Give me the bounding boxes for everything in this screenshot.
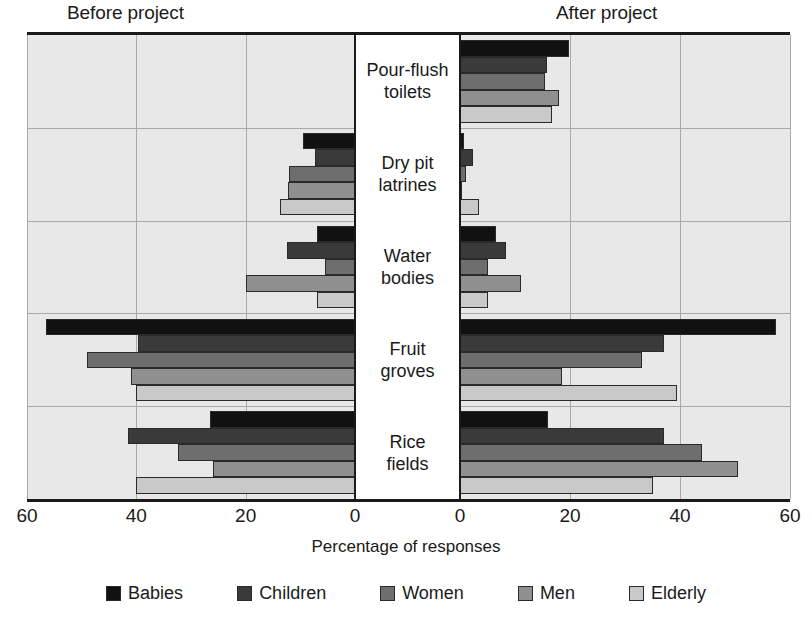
bar-after [460, 199, 479, 216]
x-axis-label: Percentage of responses [0, 537, 812, 557]
bar-before [128, 428, 355, 445]
axis-zero-left [354, 35, 356, 499]
bar-after [460, 259, 488, 276]
category-label: Dry pitlatrines [355, 152, 460, 196]
bar-before [287, 242, 355, 259]
bar-before [280, 199, 355, 216]
legend-label: Women [402, 583, 464, 604]
bar-after [460, 319, 776, 336]
bar-after [460, 275, 521, 292]
bar-after [460, 57, 547, 74]
x-tick-label: 40 [111, 505, 161, 527]
bar-after [460, 335, 664, 352]
chart-container: Before project After project Pour-flusht… [0, 0, 812, 626]
category-label: Pour-flushtoilets [355, 59, 460, 103]
plot-area: Pour-flushtoiletsDry pitlatrinesWaterbod… [27, 32, 790, 502]
bar-after [460, 352, 642, 369]
category-label: Ricefields [355, 431, 460, 475]
bar-after [460, 226, 496, 243]
bar-before [246, 275, 355, 292]
legend-label: Elderly [651, 583, 706, 604]
x-tick-label: 60 [2, 505, 52, 527]
legend-swatch-icon [629, 586, 644, 601]
legend-item[interactable]: Elderly [629, 583, 706, 604]
bar-before [46, 319, 355, 336]
legend-swatch-icon [106, 586, 121, 601]
category-label: Waterbodies [355, 245, 460, 289]
legend-item[interactable]: Men [518, 583, 575, 604]
bar-before [136, 385, 355, 402]
bar-after [460, 106, 552, 123]
panel-heading-after: After project [556, 2, 657, 24]
bar-before [303, 133, 355, 150]
legend-label: Men [540, 583, 575, 604]
bar-after [460, 385, 677, 402]
bar-after [460, 477, 653, 494]
x-tick-label: 40 [655, 505, 705, 527]
bar-after [460, 411, 548, 428]
bar-after [460, 444, 702, 461]
chart-legend: BabiesChildrenWomenMenElderly [0, 583, 812, 604]
x-tick-label: 0 [435, 505, 485, 527]
bar-before [325, 259, 355, 276]
bar-before [138, 335, 355, 352]
x-tick-label: 60 [765, 505, 812, 527]
bar-before [178, 444, 355, 461]
legend-swatch-icon [380, 586, 395, 601]
bar-after [460, 461, 738, 478]
bar-before [87, 352, 355, 369]
legend-swatch-icon [518, 586, 533, 601]
bar-before [213, 461, 355, 478]
panel-heading-before: Before project [67, 2, 184, 24]
bar-before [210, 411, 355, 428]
bar-after [460, 90, 559, 107]
legend-item[interactable]: Babies [106, 583, 183, 604]
bar-after [460, 292, 488, 309]
bar-before [317, 226, 355, 243]
bar-after [460, 40, 569, 57]
legend-item[interactable]: Women [380, 583, 464, 604]
bar-before [289, 166, 355, 183]
bar-before [136, 477, 355, 494]
gridline-vertical [790, 35, 791, 499]
legend-swatch-icon [237, 586, 252, 601]
bar-after [460, 242, 506, 259]
bar-after [460, 149, 473, 166]
legend-item[interactable]: Children [237, 583, 326, 604]
legend-label: Children [259, 583, 326, 604]
bar-before [288, 182, 355, 199]
bar-after [460, 428, 664, 445]
x-tick-label: 20 [221, 505, 271, 527]
x-tick-label: 0 [330, 505, 380, 527]
bar-after [460, 73, 545, 90]
bar-before [315, 149, 355, 166]
category-label: Fruitgroves [355, 338, 460, 382]
axis-zero-right [459, 35, 461, 499]
x-tick-label: 20 [545, 505, 595, 527]
bar-before [131, 368, 355, 385]
bar-after [460, 368, 562, 385]
bar-before [317, 292, 355, 309]
legend-label: Babies [128, 583, 183, 604]
